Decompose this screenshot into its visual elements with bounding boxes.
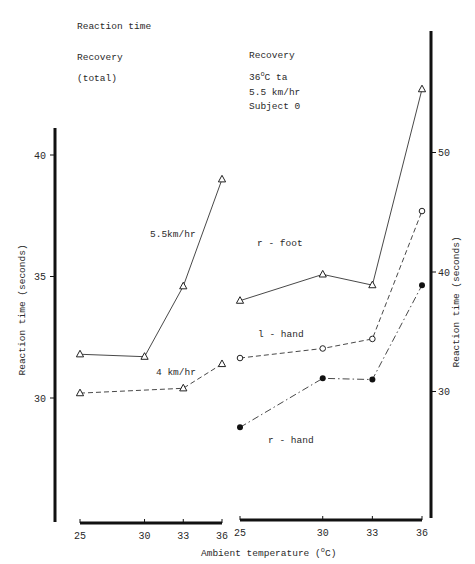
- series-label: r - hand: [268, 435, 314, 446]
- open-circle-marker: [419, 208, 425, 214]
- xlabel-pre: Ambient temperature (: [201, 548, 321, 559]
- y-tick-label: 30: [438, 387, 450, 398]
- triangle-marker: [76, 389, 83, 396]
- y-tick-label: 30: [34, 394, 46, 405]
- filled-circle-marker: [320, 375, 326, 381]
- triangle-marker: [180, 384, 187, 391]
- open-circle-marker: [320, 346, 326, 352]
- x-tick-label: 25: [234, 528, 246, 539]
- x-tick-label: 30: [139, 531, 151, 542]
- triangle-marker: [418, 85, 425, 92]
- chart-canvas: 303540253033365.5km/hr4 km/hr30405025303…: [0, 0, 475, 564]
- x-axis-label: Ambient temperature (oC): [201, 546, 336, 559]
- filled-circle-marker: [237, 424, 243, 430]
- triangle-marker: [76, 350, 83, 357]
- x-tick-label: 36: [416, 528, 428, 539]
- y-tick-label: 40: [34, 151, 46, 162]
- xlabel-post: C): [325, 548, 336, 559]
- y-tick-label: 35: [34, 272, 46, 283]
- series-label: r - foot: [257, 238, 303, 249]
- y-tick-label: 50: [438, 148, 450, 159]
- open-circle-marker: [370, 336, 376, 342]
- series-label: 4 km/hr: [156, 367, 196, 378]
- x-tick-label: 25: [74, 531, 86, 542]
- series-line: [80, 179, 222, 356]
- x-tick-label: 33: [177, 531, 189, 542]
- open-circle-marker: [237, 355, 243, 361]
- series-line: [240, 285, 422, 427]
- right-y-axis-label: Reaction time (seconds): [451, 248, 462, 368]
- filled-circle-marker: [419, 282, 425, 288]
- x-tick-label: 36: [216, 531, 228, 542]
- y-tick-label: 40: [438, 268, 450, 279]
- triangle-marker: [218, 175, 225, 182]
- triangle-marker: [141, 353, 148, 360]
- x-tick-label: 33: [366, 528, 378, 539]
- x-tick-label: 30: [317, 528, 329, 539]
- triangle-marker: [319, 270, 326, 277]
- triangle-marker: [218, 360, 225, 367]
- filled-circle-marker: [369, 377, 375, 383]
- series-line: [80, 364, 222, 393]
- series-label: 5.5km/hr: [150, 229, 196, 240]
- triangle-marker: [180, 282, 187, 289]
- series-line: [240, 89, 422, 301]
- series-label: l - hand: [258, 329, 304, 340]
- left-y-axis-label: Reaction time (seconds): [17, 256, 28, 376]
